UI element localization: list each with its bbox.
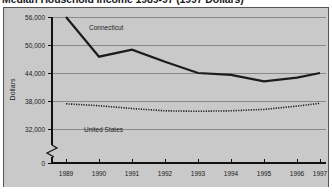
x-tick-label: 1993 — [191, 170, 206, 177]
x-tick-label: 1992 — [158, 170, 173, 177]
y-tick-label: 0 — [41, 160, 45, 167]
x-tick-label: 1997 — [313, 170, 328, 177]
series-line-united-states — [66, 103, 320, 111]
x-tick-label: 1995 — [257, 170, 272, 177]
gridlines — [52, 17, 326, 129]
series-annotation-united-states: United States — [84, 126, 124, 133]
x-tick-label: 1990 — [92, 170, 107, 177]
x-tick-label: 1996 — [290, 170, 305, 177]
x-tick-label: 1991 — [125, 170, 140, 177]
y-tick-label: 38,000 — [25, 98, 45, 105]
x-tickmarks — [66, 159, 320, 163]
y-tick-label: 32,000 — [25, 126, 45, 133]
y-tick-labels: 56,000 50,000 44,000 38,000 32,000 0 — [25, 14, 45, 167]
plot-frame: Dollars — [3, 7, 329, 187]
x-tick-label: 1989 — [59, 170, 74, 177]
y-tickmarks — [48, 17, 52, 163]
y-tick-label: 44,000 — [25, 70, 45, 77]
y-tick-label: 50,000 — [25, 42, 45, 49]
plot-svg: 56,000 50,000 44,000 38,000 32,000 0 — [4, 8, 328, 186]
x-tick-labels: 1989 1990 1991 1992 1993 1994 1995 1996 … — [59, 170, 328, 177]
chart-figure: Median Household Income 1989-97 (1997 Do… — [0, 0, 332, 194]
y-axis — [47, 17, 57, 163]
y-axis-break-icon — [47, 145, 57, 157]
y-tick-label: 56,000 — [25, 14, 45, 21]
x-tick-label: 1994 — [224, 170, 239, 177]
chart-title: Median Household Income 1989-97 (1997 Do… — [2, 0, 328, 6]
series-annotation-connecticut: Connecticut — [89, 24, 124, 31]
